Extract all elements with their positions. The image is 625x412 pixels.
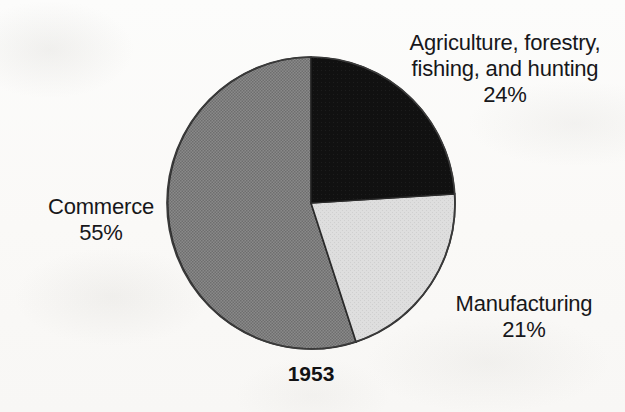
slice-label-commerce-line1: Commerce: [28, 194, 174, 220]
slice-label-manufacturing: Manufacturing 21%: [444, 291, 604, 343]
slice-label-agriculture-line1: Agriculture, forestry,: [392, 30, 618, 56]
slice-label-agriculture-line2: fishing, and hunting: [392, 56, 618, 82]
slice-value-agriculture: 24%: [392, 82, 618, 108]
slice-value-commerce: 55%: [28, 220, 174, 246]
slice-label-commerce: Commerce 55%: [28, 194, 174, 246]
slice-value-manufacturing: 21%: [444, 317, 604, 343]
chart-caption-year: 1953: [251, 362, 371, 386]
slice-label-manufacturing-line1: Manufacturing: [444, 291, 604, 317]
pie-chart-figure: Agriculture, forestry, fishing, and hunt…: [0, 0, 625, 412]
slice-label-agriculture: Agriculture, forestry, fishing, and hunt…: [392, 30, 618, 108]
